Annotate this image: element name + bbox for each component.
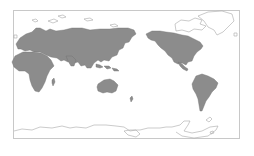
region-new-zealand (130, 96, 133, 102)
region-madagascar (52, 78, 55, 86)
region-africa (12, 52, 54, 92)
region-north-america (146, 31, 203, 65)
region-indonesia (96, 64, 119, 71)
world-map (0, 0, 254, 156)
shaded-regions (12, 28, 218, 111)
region-australia (97, 79, 118, 93)
region-south-america (192, 74, 218, 111)
